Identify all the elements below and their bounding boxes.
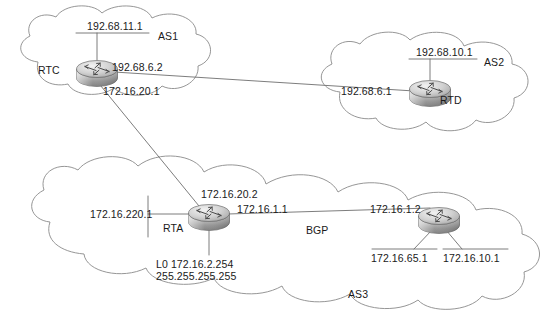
label-rtd-name: RTD <box>440 94 462 106</box>
label-rta-to-rtc-address: 172.16.20.2 <box>201 188 258 200</box>
network-diagram: 192.68.11.1 AS1 RTC 192.68.6.2 172.16.20… <box>0 0 550 319</box>
router-rta[interactable] <box>189 205 230 231</box>
link-rtc-rta <box>96 80 199 206</box>
label-rtc-to-rtd-address: 192.68.6.2 <box>112 61 163 73</box>
label-rtb-to-rta-address: 172.16.1.2 <box>370 203 421 215</box>
label-as2-name: AS2 <box>484 56 504 68</box>
cloud-as3 <box>32 156 540 309</box>
label-rta-loopback-line2: 255.255.255.255 <box>156 270 236 283</box>
label-rtc-to-rta-address: 172.16.20.1 <box>103 85 160 97</box>
label-rtb-lan2-address: 172.16.10.1 <box>443 252 500 264</box>
label-as1-name: AS1 <box>158 30 178 42</box>
label-rtc-lan-address: 192.68.11.1 <box>87 20 143 32</box>
label-rtc-name: RTC <box>38 64 60 76</box>
label-rtd-lan-address: 192.68.10.1 <box>416 46 473 58</box>
label-rta-loopback-line1: L0 172.16.2.254 <box>156 258 233 271</box>
label-rtd-to-rtc-address: 192.68.6.1 <box>341 85 392 97</box>
label-bgp-link: BGP <box>306 224 328 236</box>
label-rtb-lan1-address: 172.16.65.1 <box>371 252 428 264</box>
router-rtb[interactable] <box>419 208 460 234</box>
label-rta-lan-address: 172.16.220.1 <box>90 208 153 220</box>
label-rta-to-rtb-address: 172.16.1.1 <box>237 203 288 215</box>
label-as3-name: AS3 <box>348 288 368 300</box>
label-rta-name: RTA <box>163 222 183 234</box>
